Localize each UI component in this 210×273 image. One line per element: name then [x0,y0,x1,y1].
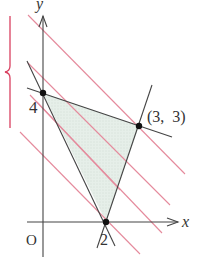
origin-label: O [26,232,37,248]
y-axis-label: y [34,0,44,13]
vertex-2-0 [103,219,109,225]
vertex-3-3 [136,123,142,129]
y-intercept-label: 4 [29,98,38,117]
brace-icon [5,16,10,128]
x-axis-label: x [181,213,189,230]
vertex-0-4 [40,90,46,96]
point-label-3-3: (3, 3) [147,108,186,126]
lp-diagram: y x O 4 2 (3, 3) [0,0,210,273]
x-intercept-label: 2 [100,231,108,248]
